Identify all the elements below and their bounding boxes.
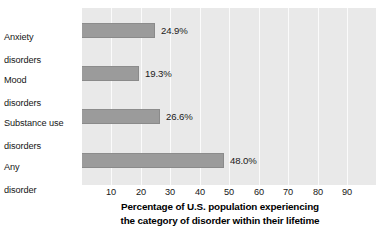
gridline-80 [318, 8, 319, 185]
xtick-20: 20 [136, 187, 146, 198]
gridline-70 [288, 8, 289, 185]
bar-value-mood-disorders: 19.3% [145, 66, 172, 81]
bar-value-substance-use-disorders: 26.6% [166, 109, 193, 124]
gridline-60 [259, 8, 260, 185]
category-label-line1: Mood [4, 75, 27, 85]
category-label-line1: Substance use [4, 118, 63, 128]
category-label-line2: disorders [4, 141, 41, 151]
plot-area: 24.9% 19.3% 26.6% 48.0% [82, 8, 376, 185]
category-label-line1: Anxiety [4, 32, 33, 42]
category-label-line2: disorder [4, 185, 36, 195]
bar-value-anxiety-disorders: 24.9% [161, 23, 188, 38]
bar-value-any-disorder: 48.0% [230, 153, 257, 168]
xtick-90: 90 [342, 187, 352, 198]
x-axis-title-line1: Percentage of U.S. population experienci… [60, 200, 380, 214]
xtick-30: 30 [165, 187, 175, 198]
gridline-90 [347, 8, 348, 185]
bar-anxiety-disorders [82, 23, 155, 38]
bar-substance-use-disorders [82, 109, 160, 124]
bar-any-disorder [82, 153, 224, 168]
x-axis-title: Percentage of U.S. population experienci… [60, 200, 380, 227]
xtick-50: 50 [224, 187, 234, 198]
xtick-10: 10 [106, 187, 116, 198]
xtick-80: 80 [313, 187, 323, 198]
bar-mood-disorders [82, 66, 139, 81]
bar-chart: Anxiety disorders Mood disorders Substan… [0, 0, 384, 234]
xtick-40: 40 [195, 187, 205, 198]
xtick-70: 70 [283, 187, 293, 198]
xtick-60: 60 [254, 187, 264, 198]
x-axis-title-line2: the category of disorder within their li… [60, 214, 380, 228]
category-label-line1: Any [4, 162, 20, 172]
